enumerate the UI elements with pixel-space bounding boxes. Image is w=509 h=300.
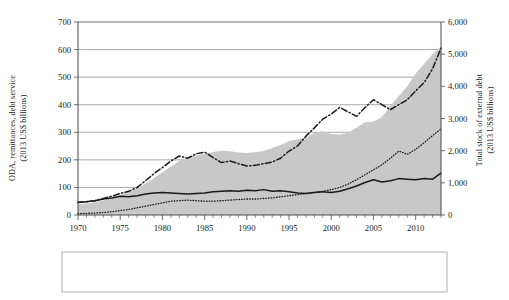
y-axis-right-tick-labels: 01,0002,0003,0004,0005,0006,000 [448,17,467,220]
y-tick-label-right: 3,000 [448,114,467,124]
chart-legend [62,252,447,292]
x-axis-tick-labels: 197019751980198519901995200020052010 [69,223,424,233]
y-tick-label-left: 500 [58,72,71,82]
y-tick-label-right: 5,000 [448,49,467,59]
x-tick-label: 2000 [323,223,340,233]
y-axis-left-tick-labels: 0100200300400500600700 [58,17,71,220]
y-tick-label-right: 1,000 [448,178,467,188]
chart-figure: 197019751980198519901995200020052010 010… [0,0,509,300]
x-tick-label: 1980 [154,223,171,233]
x-tick-label: 1970 [69,223,86,233]
y-tick-label-left: 400 [58,100,71,110]
y-tick-label-left: 0 [67,210,71,220]
x-tick-label: 1990 [238,223,255,233]
x-tick-label: 1995 [280,223,297,233]
y-tick-label-left: 100 [58,182,71,192]
y-axis-right-title-line1: Total stock of external debt [475,73,484,166]
x-tick-label: 1985 [196,223,213,233]
y-tick-label-left: 600 [58,45,71,55]
x-tick-label: 2010 [407,223,424,233]
x-tick-label: 2005 [365,223,382,233]
y-axis-left-title-line2: (2013 US$ billions) [19,94,28,161]
y-tick-label-left: 300 [58,127,71,137]
y-tick-label-left: 200 [58,155,71,165]
y-axis-left-title-line1: ODA, remittances, debt service [8,75,17,181]
y-tick-label-right: 2,000 [448,146,467,156]
legend-border [62,252,447,292]
y-axis-right-title-line2: (2013 US$ billions) [486,86,495,153]
x-tick-label: 1975 [112,223,129,233]
y-tick-label-left: 700 [58,17,71,27]
y-tick-label-right: 6,000 [448,17,467,27]
y-tick-label-right: 0 [448,210,452,220]
y-tick-label-right: 4,000 [448,81,467,91]
